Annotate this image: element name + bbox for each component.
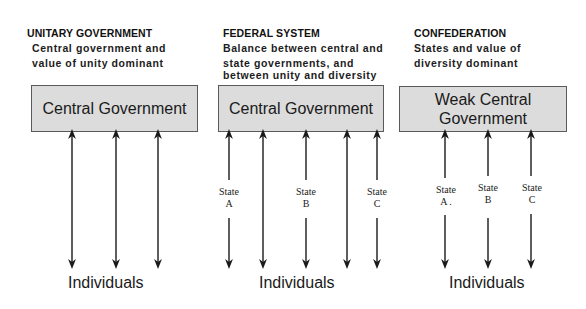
connector-arrows — [0, 0, 586, 309]
